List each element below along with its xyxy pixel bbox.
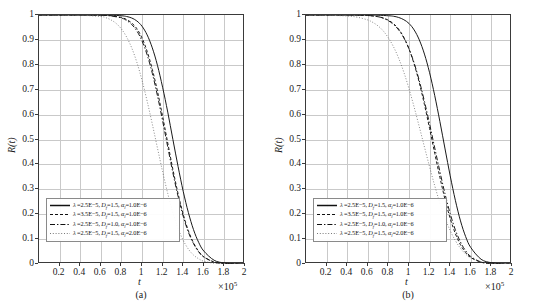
axis-tick-label-x: 1.8: [217, 267, 229, 277]
axis-tick-y: [35, 114, 38, 115]
legend-row: λ =2.5E−5, Df=1.5, αl=2.0E−6: [49, 229, 176, 239]
axis-label-x: t: [138, 276, 141, 287]
legend-a: λ =2.5E−5, Df=1.5, αl=1.0E−6λ =3.5E−5, D…: [46, 198, 180, 242]
legend-label: λ =2.5E−5, Df=1.0, αl=1.0E−6: [340, 220, 414, 229]
axis-tick-label-x: 2: [242, 267, 247, 277]
axis-tick-y: [302, 188, 305, 189]
axis-multiplier: ×105: [485, 280, 504, 292]
legend-label: λ =2.5E−5, Df=1.5, αl=2.0E−6: [340, 229, 414, 238]
axis-tick-label-y: 0.8: [10, 59, 34, 69]
axis-tick-label-y: 0.3: [277, 183, 301, 193]
axis-tick-label-x: 1.8: [484, 267, 496, 277]
axis-tick-y: [35, 213, 38, 214]
legend-b: λ =2.5E−5, Df=1.5, αl=1.0E−6λ =3.5E−5, D…: [313, 198, 447, 242]
axis-tick-label-y: 0.6: [277, 109, 301, 119]
axis-tick-x: [203, 263, 204, 266]
axis-tick-y: [302, 263, 305, 264]
legend-row: λ =2.5E−5, Df=1.5, αl=1.0E−6: [316, 201, 443, 211]
axis-multiplier: ×105: [218, 280, 237, 292]
axis-tick-label-x: 1.2: [156, 267, 168, 277]
axis-tick-x: [100, 263, 101, 266]
legend-label: λ =3.5E−5, Df=1.5, αl=1.0E−6: [340, 210, 414, 219]
axis-tick-y: [302, 238, 305, 239]
axis-tick-label-x: 1.6: [464, 267, 476, 277]
axis-tick-x: [367, 263, 368, 266]
axis-tick-x: [449, 263, 450, 266]
axis-tick-y: [35, 163, 38, 164]
axis-tick-y: [35, 89, 38, 90]
axis-tick-y: [302, 39, 305, 40]
axis-tick-label-y: 0.2: [277, 208, 301, 218]
axis-tick-label-y: 0.6: [10, 109, 34, 119]
axis-tick-y: [35, 188, 38, 189]
axis-tick-label-x: 0.8: [114, 267, 126, 277]
axis-tick-y: [302, 14, 305, 15]
axis-tick-x: [162, 263, 163, 266]
axis-tick-label-x: 0.2: [53, 267, 65, 277]
axis-tick-label-y: 0.2: [10, 208, 34, 218]
axis-tick-x: [326, 263, 327, 266]
axis-tick-x: [182, 263, 183, 266]
axis-tick-label-y: 0: [277, 258, 301, 268]
legend-label: λ =2.5E−5, Df=1.0, αl=1.0E−6: [73, 220, 147, 229]
axis-label-y: R(t): [273, 137, 284, 153]
figure-root: 0.20.40.60.811.21.41.61.8200.10.20.30.40…: [0, 0, 534, 307]
axis-tick-x: [120, 263, 121, 266]
axis-tick-y: [35, 139, 38, 140]
axis-tick-label-y: 0.8: [277, 59, 301, 69]
axis-tick-x: [470, 263, 471, 266]
axis-tick-x: [223, 263, 224, 266]
axis-tick-label-y: 1: [10, 9, 34, 19]
axis-tick-label-x: 0.8: [381, 267, 393, 277]
axis-tick-label-y: 0.9: [277, 34, 301, 44]
axis-tick-x: [429, 263, 430, 266]
axis-tick-label-y: 0.9: [10, 34, 34, 44]
axis-tick-x: [79, 263, 80, 266]
panel-caption-a: (a): [135, 289, 146, 300]
legend-row: λ =3.5E−5, Df=1.5, αl=1.0E−6: [49, 210, 176, 220]
axis-tick-label-x: 1.2: [423, 267, 435, 277]
legend-line-sample-solid: [49, 201, 71, 210]
axis-tick-label-y: 0.7: [277, 84, 301, 94]
axis-tick-y: [302, 163, 305, 164]
axis-tick-label-y: 0.3: [10, 183, 34, 193]
axis-tick-label-x: 1.4: [176, 267, 188, 277]
axis-tick-label-x: 2: [509, 267, 514, 277]
axis-tick-y: [302, 114, 305, 115]
axis-tick-x: [141, 263, 142, 266]
axis-label-y: R(t): [6, 137, 17, 153]
axis-tick-y: [35, 238, 38, 239]
axis-tick-y: [35, 14, 38, 15]
axis-label-x: t: [405, 276, 408, 287]
legend-label: λ =2.5E−5, Df=1.5, αl=1.0E−6: [73, 201, 147, 210]
panel-a: 0.20.40.60.811.21.41.61.8200.10.20.30.40…: [0, 0, 267, 307]
panel-b: 0.20.40.60.811.21.41.61.8200.10.20.30.40…: [267, 0, 534, 307]
legend-row: λ =2.5E−5, Df=1.0, αl=1.0E−6: [49, 220, 176, 230]
axis-tick-x: [59, 263, 60, 266]
axis-tick-label-y: 0.4: [277, 158, 301, 168]
axis-tick-y: [302, 139, 305, 140]
axis-tick-label-y: 0.1: [10, 233, 34, 243]
axis-tick-x: [346, 263, 347, 266]
legend-row: λ =3.5E−5, Df=1.5, αl=1.0E−6: [316, 210, 443, 220]
legend-label: λ =2.5E−5, Df=1.5, αl=1.0E−6: [340, 201, 414, 210]
legend-label: λ =3.5E−5, Df=1.5, αl=1.0E−6: [73, 210, 147, 219]
legend-line-sample-dashdot: [316, 220, 338, 229]
axis-tick-x: [408, 263, 409, 266]
legend-line-sample-dashed: [316, 210, 338, 219]
axis-tick-label-y: 0: [10, 258, 34, 268]
axis-tick-label-x: 0.4: [340, 267, 352, 277]
axis-tick-label-y: 0.1: [277, 233, 301, 243]
legend-line-sample-solid: [316, 201, 338, 210]
axis-tick-y: [302, 213, 305, 214]
axis-tick-x: [244, 263, 245, 266]
axis-tick-label-x: 1.6: [197, 267, 209, 277]
axis-tick-label-x: 0.6: [94, 267, 106, 277]
axis-tick-y: [35, 263, 38, 264]
legend-row: λ =2.5E−5, Df=1.5, αl=1.0E−6: [49, 201, 176, 211]
legend-label: λ =2.5E−5, Df=1.5, αl=2.0E−6: [73, 229, 147, 238]
axis-tick-y: [302, 64, 305, 65]
axis-tick-label-x: 0.6: [361, 267, 373, 277]
legend-row: λ =2.5E−5, Df=1.0, αl=1.0E−6: [316, 220, 443, 230]
legend-line-sample-dotted: [49, 229, 71, 238]
